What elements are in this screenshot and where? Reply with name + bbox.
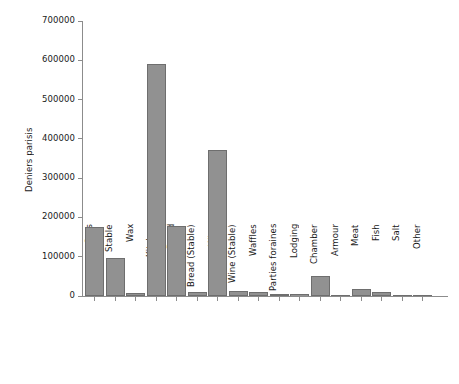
bar (413, 295, 432, 296)
bar (270, 294, 289, 296)
bar (229, 291, 248, 296)
bar (167, 226, 186, 296)
x-tick-label: Armour (330, 224, 341, 304)
x-tick-label: Wax (125, 224, 136, 304)
bar (126, 293, 145, 296)
y-tick-label: 0 (69, 290, 75, 300)
bar (188, 292, 207, 296)
y-tick-mark (78, 178, 82, 179)
y-axis-title: Deniers parisis (22, 100, 36, 220)
bar (372, 292, 391, 296)
y-tick-label: 500000 (42, 94, 75, 104)
y-tick-mark (78, 60, 82, 61)
bar (249, 292, 268, 296)
bar (85, 227, 104, 296)
y-tick-mark (78, 296, 82, 297)
bar (352, 289, 371, 296)
y-tick-mark (78, 21, 82, 22)
y-axis-line (82, 21, 83, 297)
x-tick-label: Salt (391, 224, 402, 304)
y-tick-label: 400000 (42, 133, 75, 143)
y-tick-label: 300000 (42, 172, 75, 182)
x-tick-label: Parties foraines (268, 224, 279, 304)
bar (331, 295, 350, 296)
y-tick-mark (78, 138, 82, 139)
bar (290, 294, 309, 296)
bar (393, 295, 412, 296)
bar (106, 258, 125, 297)
bar-chart: Deniers parisis 010000020000030000040000… (0, 0, 459, 384)
x-tick-label: Other (412, 224, 423, 304)
y-tick-mark (78, 99, 82, 100)
y-tick-label: 700000 (42, 15, 75, 25)
plot-area: 0100000200000300000400000500000600000700… (82, 21, 448, 296)
y-tick-mark (78, 256, 82, 257)
y-tick-label: 200000 (42, 211, 75, 221)
y-tick-label: 600000 (42, 54, 75, 64)
bar (208, 150, 227, 296)
x-tick-label: Lodging (289, 224, 300, 304)
bar (147, 64, 166, 296)
bar (311, 276, 330, 296)
y-tick-label: 100000 (42, 251, 75, 261)
y-tick-mark (78, 217, 82, 218)
